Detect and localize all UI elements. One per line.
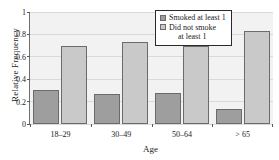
y-tick-label: 0.6	[16, 52, 26, 61]
x-tick-mark	[91, 124, 92, 127]
plot-area: 00.20.40.60.8118–2930–4950–64> 65	[29, 12, 273, 125]
legend-label-not-smoked-line1: Did not smoke	[169, 23, 216, 32]
legend-swatch-not-smoked-icon	[160, 24, 166, 30]
legend-label-not-smoked: Did not smokeat least 1	[169, 23, 216, 42]
x-tick-mark	[272, 124, 273, 127]
chart-legend: Smoked at least 1 Did not smokeat least …	[155, 10, 232, 46]
y-tick-mark	[27, 79, 30, 80]
y-tick-label: 0.4	[16, 75, 26, 84]
bar-smoked	[216, 109, 242, 124]
x-tick-label: 50–64	[172, 130, 192, 139]
legend-item-not-smoked: Did not smokeat least 1	[160, 23, 226, 42]
x-tick-mark	[212, 124, 213, 127]
legend-label-smoked: Smoked at least 1	[169, 13, 226, 23]
legend-swatch-smoked-icon	[160, 15, 166, 21]
y-gridline	[30, 12, 273, 13]
y-tick-mark	[27, 12, 30, 13]
y-tick-label: 0.8	[16, 30, 26, 39]
legend-item-smoked: Smoked at least 1	[160, 13, 226, 23]
x-tick-label: 30–49	[111, 130, 131, 139]
y-axis-label: Relative Frequency	[10, 5, 20, 125]
bar-not-smoked	[183, 46, 209, 124]
x-tick-label: 18–29	[50, 130, 70, 139]
x-tick-label: > 65	[235, 130, 250, 139]
bar-not-smoked	[61, 46, 87, 124]
y-tick-label: 0.2	[16, 97, 26, 106]
bar-smoked	[33, 90, 59, 124]
y-tick-label: 0	[22, 120, 26, 129]
y-gridline	[30, 34, 273, 35]
y-tick-label: 1	[22, 8, 26, 17]
y-tick-mark	[27, 101, 30, 102]
bar-not-smoked	[122, 42, 148, 124]
bar-smoked	[94, 94, 120, 124]
y-tick-mark	[27, 56, 30, 57]
x-tick-mark	[152, 124, 153, 127]
y-tick-mark	[27, 34, 30, 35]
bar-chart-figure: Relative Frequency 00.20.40.60.8118–2930…	[0, 0, 279, 160]
x-axis-label: Age	[29, 144, 272, 154]
bar-smoked	[155, 93, 181, 124]
legend-label-not-smoked-line2: at least 1	[169, 32, 216, 42]
bar-not-smoked	[244, 31, 270, 124]
cropped-title-strip	[70, 0, 250, 7]
x-tick-mark	[30, 124, 31, 127]
